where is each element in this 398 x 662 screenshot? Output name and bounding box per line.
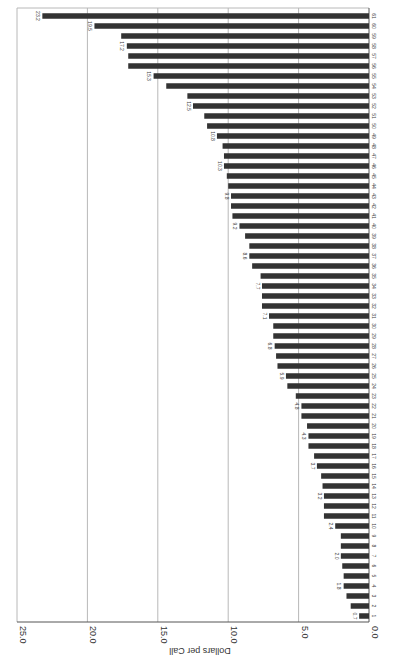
category-label: 30: [371, 323, 377, 329]
category-label: 18: [371, 443, 377, 449]
category-label: 56: [371, 63, 377, 69]
value-label: 15.3: [146, 71, 152, 81]
value-label: 10.3: [217, 161, 223, 171]
category-label: 43: [371, 193, 377, 199]
bar: [262, 303, 369, 309]
category-label: 12: [371, 503, 377, 509]
value-tick-label: 25.0: [18, 626, 28, 644]
bar: [94, 23, 369, 29]
value-label: 9.2: [232, 223, 238, 230]
value-label: 10.8: [210, 131, 216, 141]
bar: [324, 503, 369, 509]
category-label: 46: [371, 163, 377, 169]
bar: [187, 93, 369, 99]
category-label: 2: [371, 605, 377, 608]
bar: [223, 143, 369, 149]
value-label: 4.3: [301, 433, 307, 440]
value-tick-label: 15.0: [159, 626, 169, 644]
bar: [207, 123, 369, 129]
category-label: 10: [371, 523, 377, 529]
category-label: 54: [371, 83, 377, 89]
value-label: 23.2: [35, 11, 41, 21]
category-label: 51: [371, 113, 377, 119]
bar: [231, 193, 369, 199]
bar: [296, 393, 369, 399]
category-label: 17: [371, 453, 377, 459]
value-label: 17.2: [119, 41, 125, 51]
bar: [232, 213, 369, 219]
bar: [217, 133, 369, 139]
category-label: 3: [371, 595, 377, 598]
category-label: 26: [371, 363, 377, 369]
bar: [344, 573, 369, 579]
category-label: 37: [371, 253, 377, 259]
category-label: 52: [371, 103, 377, 109]
value-label: 3.7: [310, 463, 316, 470]
bar: [287, 383, 369, 389]
bar: [341, 553, 369, 559]
bar: [286, 373, 369, 379]
category-label: 1: [371, 615, 377, 618]
value-axis-title: Dollars per Call: [169, 646, 231, 656]
bar: [227, 173, 369, 179]
category-label: 47: [371, 153, 377, 159]
bar: [308, 443, 369, 449]
value-label: 9.8: [224, 193, 230, 200]
category-label: 42: [371, 203, 377, 209]
bar: [308, 433, 369, 439]
bar: [273, 333, 369, 339]
category-label: 20: [371, 423, 377, 429]
bar: [193, 103, 369, 109]
category-label: 5: [371, 575, 377, 578]
category-label: 25: [371, 373, 377, 379]
bar: [324, 513, 369, 519]
bar: [262, 283, 369, 289]
category-label: 28: [371, 343, 377, 349]
bar: [341, 543, 369, 549]
bar: [154, 73, 369, 79]
value-tick-label: 20.0: [88, 626, 98, 644]
category-label: 60: [371, 23, 377, 29]
bar: [261, 273, 369, 279]
bar: [166, 83, 369, 89]
category-label: 34: [371, 283, 377, 289]
category-label: 61: [371, 13, 377, 19]
category-label: 19: [371, 433, 377, 439]
value-label: 8.6: [242, 253, 248, 260]
category-label: 21: [371, 413, 377, 419]
bar: [323, 483, 369, 489]
bar: [239, 223, 369, 229]
category-label: 8: [371, 545, 377, 548]
value-label: 7.7: [255, 283, 261, 290]
value-tick-label: 0.0: [370, 626, 380, 639]
bar: [269, 313, 369, 319]
category-label: 29: [371, 333, 377, 339]
category-label: 49: [371, 133, 377, 139]
value-label: 2.4: [328, 523, 334, 530]
category-label: 58: [371, 43, 377, 49]
bar: [276, 353, 369, 359]
category-label: 14: [371, 483, 377, 489]
category-label: 7: [371, 555, 377, 558]
value-label: 0.7: [352, 613, 358, 620]
bar: [307, 423, 369, 429]
category-label: 50: [371, 123, 377, 129]
bar: [314, 453, 369, 459]
category-label: 13: [371, 493, 377, 499]
value-label: 12.5: [186, 101, 192, 111]
value-label: 5.9: [279, 373, 285, 380]
bar: [277, 363, 369, 369]
bar: [252, 263, 369, 269]
category-label: 27: [371, 353, 377, 359]
category-label: 31: [371, 313, 377, 319]
category-label: 23: [371, 393, 377, 399]
category-label: 24: [371, 383, 377, 389]
bar: [245, 233, 369, 239]
value-label: 19.5: [87, 21, 93, 31]
value-label: 3.2: [317, 493, 323, 500]
bar: [321, 473, 369, 479]
bar: [121, 33, 369, 39]
value-label: 6.8: [267, 343, 273, 350]
bar: [249, 253, 369, 259]
bar-chart: 0.05.010.015.020.025.0123456789101112131…: [0, 0, 398, 662]
